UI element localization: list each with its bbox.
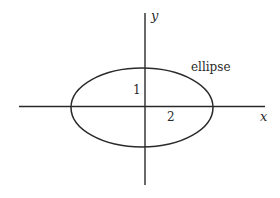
ellipse-label: ellipse [191,61,231,73]
ellipse-diagram: y x ellipse 1 2 [0,0,280,198]
diagram-graphic [0,0,280,198]
semi-major-axis-label: 2 [167,111,175,123]
semi-minor-axis-label: 1 [133,84,141,96]
y-axis-label: y [151,9,158,22]
x-axis-label: x [260,110,267,123]
ellipse-curve [71,68,213,147]
